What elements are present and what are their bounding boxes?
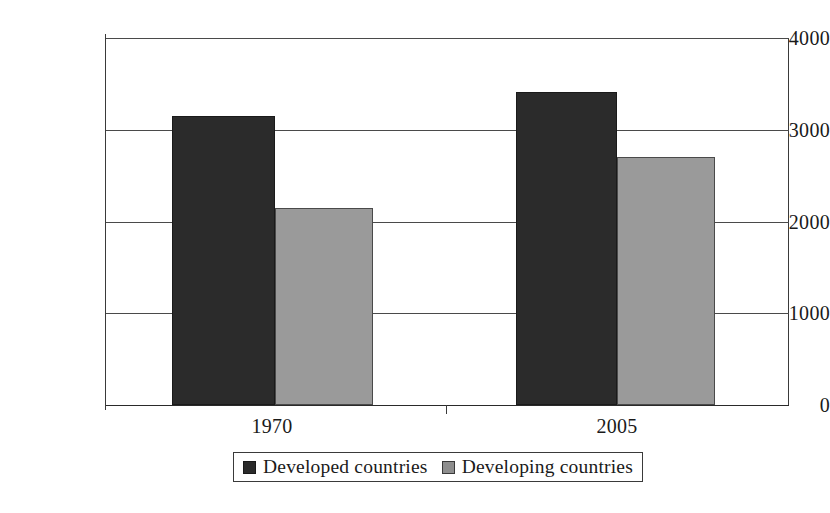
ytick-0 bbox=[105, 401, 106, 410]
xtick-separator bbox=[446, 405, 447, 414]
ytick-label-1000: 1000 bbox=[738, 303, 830, 323]
ytick-4000 bbox=[105, 34, 106, 42]
legend-label-developing: Developing countries bbox=[462, 457, 633, 477]
bar-chart-figure: 4000 3000 2000 1000 0 1970 2005 Develope… bbox=[0, 0, 830, 513]
ytick-2000 bbox=[105, 218, 106, 226]
light-square-swatch-icon bbox=[442, 461, 455, 474]
dark-square-swatch-icon bbox=[243, 461, 256, 474]
ytick-label-0: 0 bbox=[738, 395, 830, 415]
bar-developed-1970 bbox=[172, 116, 275, 405]
bar-developed-2005 bbox=[516, 92, 617, 405]
xtick-label-2005: 2005 bbox=[567, 415, 667, 437]
gridline-4000 bbox=[105, 38, 789, 39]
legend-label-developed: Developed countries bbox=[263, 457, 428, 477]
ytick-3000 bbox=[105, 126, 106, 134]
bar-developing-1970 bbox=[275, 208, 373, 405]
ytick-label-3000: 3000 bbox=[738, 120, 830, 140]
gridline-baseline-0 bbox=[105, 405, 789, 406]
legend-entry-developing: Developing countries bbox=[442, 457, 633, 477]
xtick-label-1970: 1970 bbox=[222, 415, 322, 437]
ytick-1000 bbox=[105, 309, 106, 317]
legend-entry-developed: Developed countries bbox=[243, 457, 428, 477]
ytick-label-2000: 2000 bbox=[738, 212, 830, 232]
bar-developing-2005 bbox=[617, 157, 715, 405]
ytick-label-4000: 4000 bbox=[738, 28, 830, 48]
chart-legend: Developed countries Developing countries bbox=[233, 452, 643, 482]
